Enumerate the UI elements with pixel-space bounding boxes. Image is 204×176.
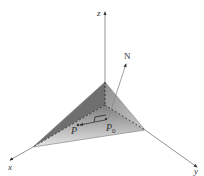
x-axis: [10, 147, 33, 160]
y-axis-label: y: [193, 166, 198, 176]
y-axis: [145, 130, 197, 167]
point-p0: [105, 118, 107, 120]
point-p-label: P: [70, 125, 77, 136]
x-axis-label: x: [7, 162, 12, 172]
z-axis-label: z: [96, 8, 101, 18]
point-p0-letter: P: [105, 122, 112, 133]
point-p0-subscript: 0: [112, 127, 116, 135]
diagram: z x y N P P0: [0, 0, 204, 176]
normal-label: N: [124, 51, 131, 61]
diagram-canvas: z x y N P P0: [0, 0, 204, 176]
point-p: [77, 124, 79, 126]
